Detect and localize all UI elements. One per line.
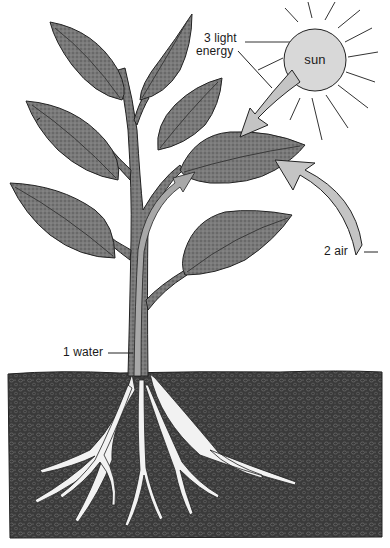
soil (8, 371, 382, 538)
sun (245, 2, 378, 140)
leaves (10, 14, 305, 275)
diagram-canvas (0, 0, 390, 548)
light-energy-label-line2: energy (196, 45, 233, 57)
leaf-left-low (10, 183, 115, 258)
air-label: 2 air (324, 245, 348, 257)
leaf-right-low (183, 211, 293, 275)
light-leader (238, 51, 272, 88)
photosynthesis-diagram: 1 water 2 air 3 light energy sun (0, 0, 390, 548)
sun-label: sun (285, 54, 345, 66)
light-energy-arrow (240, 70, 300, 137)
air-arrow (275, 160, 362, 255)
light-energy-label-line1: 3 light (204, 32, 237, 44)
water-label: 1 water (63, 346, 103, 358)
leaf-mid-left (26, 101, 119, 180)
